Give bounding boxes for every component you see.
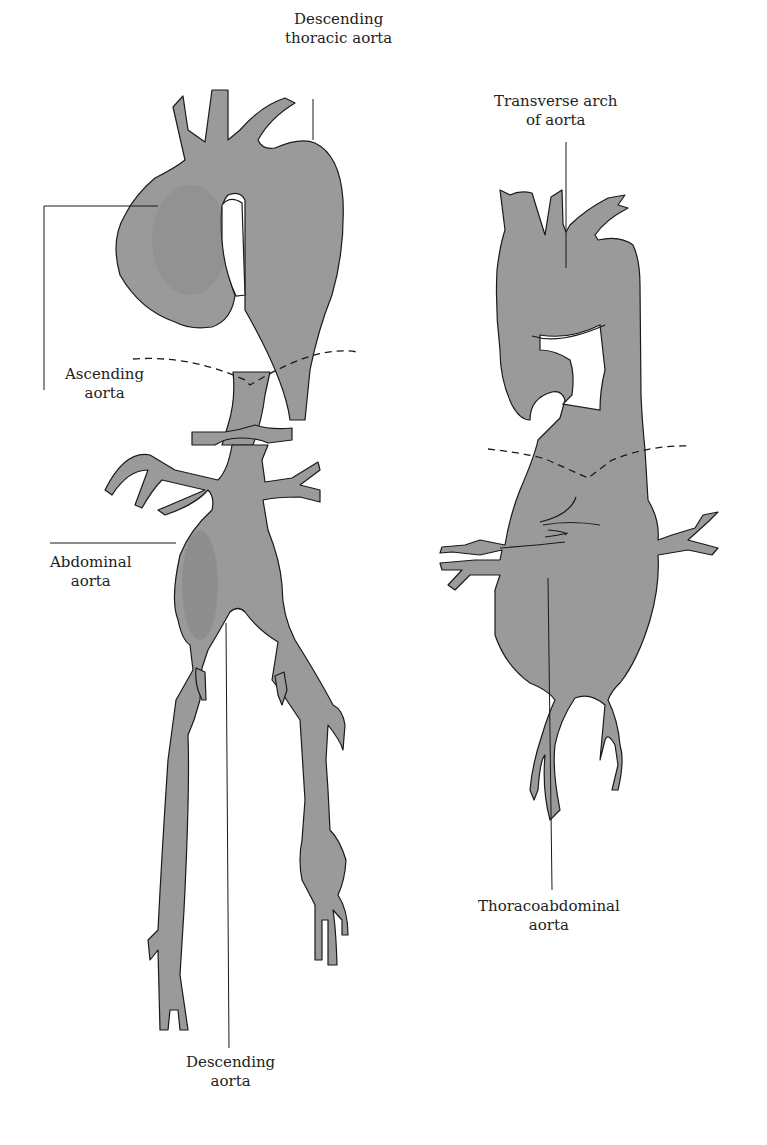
leader-descending: [226, 623, 229, 1048]
right-internal-iliac-branch: [275, 672, 287, 705]
label-abdominal-aorta: Abdominal aorta: [50, 553, 132, 591]
label-descending-thoracic-aorta: Descending thoracic aorta: [285, 10, 392, 48]
right-aorta-figure: [440, 190, 718, 820]
label-descending-aorta: Descending aorta: [186, 1053, 275, 1091]
label-ascending-aorta: Ascending aorta: [65, 365, 144, 403]
left-aorta-figure: [105, 90, 348, 1030]
label-thoracoabdominal-aorta: Thoracoabdominal aorta: [478, 897, 620, 935]
right-arch-and-aneurysm: [440, 190, 718, 820]
aorta-diagram: Descending thoracic aorta Ascending aort…: [0, 0, 767, 1145]
label-transverse-arch-of-aorta: Transverse arch of aorta: [494, 92, 618, 130]
